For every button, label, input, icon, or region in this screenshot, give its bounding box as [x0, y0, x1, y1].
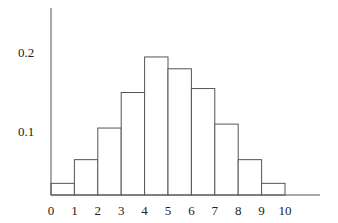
histogram-bar [238, 160, 261, 195]
histogram-chart: 012345678910 0.10.2 [0, 0, 338, 223]
histogram-bar [121, 93, 144, 196]
y-tick-label: 0.1 [18, 124, 34, 139]
histogram-bar [145, 57, 168, 195]
x-tick-label: 2 [95, 203, 102, 218]
x-tick-label: 4 [141, 203, 148, 218]
x-tick-label: 6 [188, 203, 195, 218]
x-tick-label: 9 [258, 203, 265, 218]
x-tick-label: 10 [279, 203, 292, 218]
histogram-bar [74, 160, 97, 195]
x-tick-label: 0 [48, 203, 55, 218]
x-tick-label: 3 [118, 203, 125, 218]
histogram-bar [262, 183, 285, 195]
x-tick-labels: 012345678910 [48, 203, 292, 218]
y-tick-labels: 0.10.2 [18, 45, 34, 139]
x-tick-label: 5 [165, 203, 172, 218]
y-tick-label: 0.2 [18, 45, 34, 60]
histogram-bar [168, 69, 191, 195]
x-tick-label: 7 [212, 203, 219, 218]
histogram-bar [98, 128, 121, 195]
histogram-bar [215, 124, 238, 195]
histogram-bars [51, 57, 285, 195]
x-tick-label: 1 [71, 203, 78, 218]
x-tick-label: 8 [235, 203, 242, 218]
histogram-bar [191, 89, 214, 195]
histogram-bar [51, 183, 74, 195]
